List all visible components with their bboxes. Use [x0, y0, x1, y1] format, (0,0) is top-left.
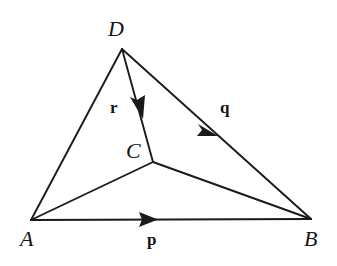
vector-label-r: r	[110, 99, 118, 116]
vector-triangle-diagram: D A B C p q r	[0, 0, 337, 266]
point-label-A: A	[20, 228, 33, 250]
vector-label-p: p	[147, 231, 156, 248]
segment-D-B	[122, 49, 311, 219]
segment-A-B	[31, 219, 311, 220]
point-label-B: B	[304, 228, 317, 250]
segment-C-B	[153, 162, 311, 219]
point-label-D: D	[108, 18, 124, 40]
vector-label-q: q	[220, 99, 229, 116]
segment-A-D	[31, 49, 122, 220]
diagram-canvas	[0, 0, 337, 266]
segment-A-C	[31, 162, 153, 220]
arrowhead-r-icon	[130, 95, 145, 119]
point-label-C: C	[126, 140, 141, 162]
